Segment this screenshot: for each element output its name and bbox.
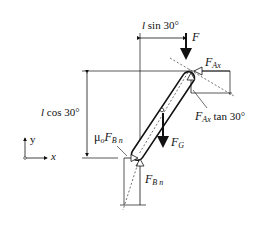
label-l-cos30: l cos 30° bbox=[41, 107, 80, 118]
label-axis-x: x bbox=[51, 151, 56, 162]
label-FAx: FAx bbox=[205, 56, 221, 70]
resultant-B-dashed bbox=[123, 160, 139, 210]
label-FAx-tan30: FAx tan 30° bbox=[195, 110, 245, 124]
label-axis-y: y bbox=[30, 134, 36, 145]
label-F: F bbox=[192, 31, 199, 43]
label-FBn: FB n bbox=[145, 173, 163, 187]
center-of-gravity-icon bbox=[160, 108, 164, 112]
label-mu-FBn: μoFB n bbox=[94, 131, 123, 145]
label-FG: FG bbox=[171, 136, 184, 150]
leader-muFBn bbox=[117, 146, 127, 156]
force-FAx-arrowhead bbox=[194, 67, 202, 75]
label-l-sin30: l sin 30° bbox=[142, 20, 179, 31]
